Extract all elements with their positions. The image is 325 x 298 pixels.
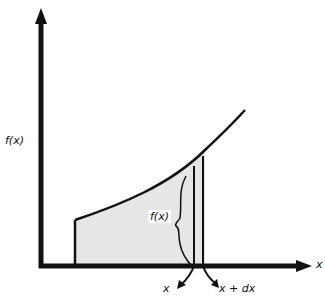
y-axis-label: f(x) xyxy=(5,134,24,147)
x-plus-dx-pointer-arrow xyxy=(203,266,215,283)
y-axis-arrowhead xyxy=(35,8,47,24)
strip-left-label: x xyxy=(163,282,170,295)
x-axis-label: x xyxy=(316,258,323,271)
x-pointer-arrow xyxy=(181,266,194,285)
strip-right-label: x + dx xyxy=(219,282,255,295)
x-axis-arrowhead xyxy=(296,260,312,272)
diagram-canvas xyxy=(0,0,325,298)
strip-height-label: f(x) xyxy=(148,210,171,223)
